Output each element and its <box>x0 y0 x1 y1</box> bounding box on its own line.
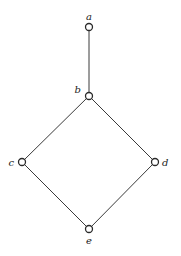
node-label-b: b <box>75 84 81 95</box>
edge-d-e <box>91 164 152 226</box>
node-label-d: d <box>162 157 168 168</box>
node-label-a: a <box>86 11 92 22</box>
labels-group: abcde <box>8 11 168 246</box>
node-label-c: c <box>8 157 14 168</box>
edge-b-d <box>91 98 152 159</box>
edge-c-e <box>24 164 86 226</box>
edges-group <box>24 31 152 227</box>
edge-b-c <box>24 98 86 159</box>
node-label-e: e <box>86 235 92 246</box>
node-d <box>152 159 159 166</box>
node-c <box>19 159 26 166</box>
node-e <box>86 226 93 233</box>
hasse-diagram: abcde <box>0 0 181 256</box>
node-b <box>86 93 93 100</box>
node-a <box>86 24 93 31</box>
